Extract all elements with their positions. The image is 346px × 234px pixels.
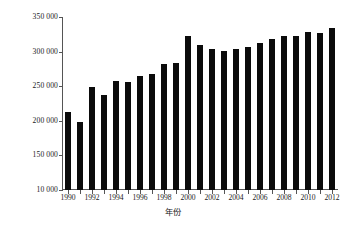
- bar: [257, 43, 263, 190]
- bar: [245, 47, 251, 190]
- y-axis-tick-label: 350 000: [16, 13, 58, 21]
- bar: [293, 36, 299, 190]
- bar: [209, 49, 215, 190]
- bar: [89, 87, 95, 190]
- y-axis-tick: [59, 17, 63, 18]
- bar: [269, 39, 275, 190]
- y-axis-tick: [59, 121, 63, 122]
- bars-layer: [62, 17, 338, 190]
- bar-chart: 与生物多样性有关的词条/条 350 000300 000250 000200 0…: [0, 0, 346, 234]
- y-axis-tick: [59, 155, 63, 156]
- y-axis-tick: [59, 52, 63, 53]
- bar: [197, 45, 203, 190]
- bar: [233, 49, 239, 190]
- y-axis-tick-label: 200 000: [16, 117, 58, 125]
- bar: [221, 51, 227, 190]
- bar: [173, 63, 179, 190]
- y-axis-tick-label: 250 000: [16, 82, 58, 90]
- x-axis-tick-labels: 1990199219941996199820002002200420062008…: [62, 193, 342, 205]
- bar: [161, 64, 167, 190]
- bar: [317, 33, 323, 190]
- y-axis-tick-label: 150 000: [16, 151, 58, 159]
- bar: [329, 28, 335, 190]
- bar: [65, 112, 71, 190]
- y-axis-tick: [59, 86, 63, 87]
- bar: [101, 95, 107, 190]
- bar: [137, 76, 143, 190]
- y-axis-tick: [59, 190, 63, 191]
- y-axis-tick-labels: 350 000300 000250 000200 000150 00010 00…: [16, 0, 58, 234]
- bar: [125, 82, 131, 190]
- x-axis-title: 年份: [0, 207, 346, 218]
- bar: [77, 122, 83, 191]
- bar: [113, 81, 119, 190]
- plot-area: [62, 17, 338, 190]
- bar: [149, 74, 155, 190]
- x-axis-tick-label: 2012: [318, 193, 346, 203]
- bar: [305, 32, 311, 190]
- bar: [281, 36, 287, 190]
- bar: [185, 36, 191, 190]
- y-axis-tick-label: 10 000: [16, 186, 58, 194]
- y-axis-tick-label: 300 000: [16, 48, 58, 56]
